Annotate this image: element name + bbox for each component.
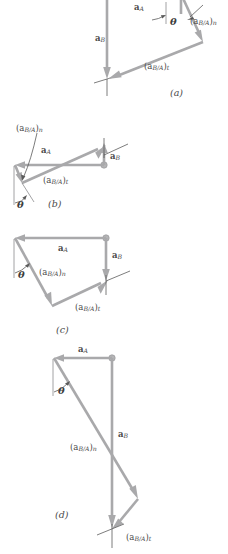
panel-c-label-aB-subscript: B xyxy=(118,253,123,260)
panel-a-theta-pointer-head xyxy=(161,15,166,19)
panel-a-label-aA-subscript: A xyxy=(140,5,144,12)
panel-d-label-rel-t-component: t xyxy=(149,535,152,542)
panel-b-label-aB-subscript: B xyxy=(116,154,121,161)
panel-d-label-rel-t: (aB/A)t xyxy=(126,533,151,542)
panel-b-label-aB: aB xyxy=(110,152,120,161)
panel-c-label-aB: aB xyxy=(112,251,122,260)
vector-diagram-svg xyxy=(0,0,228,554)
panel-c-label-rel-n-subscript: B/A xyxy=(47,270,58,277)
panel-a-label-aB-subscript: B xyxy=(101,36,106,43)
panel-c-tip-tick xyxy=(106,271,130,281)
panel-d-label-theta: θ xyxy=(58,386,65,396)
panel-d-label-rel-n-subscript: B/A xyxy=(78,445,89,452)
panel-a-vector-rel-t-head xyxy=(108,71,122,79)
panel-b-label-aA: aA xyxy=(41,146,51,155)
panel-a-label-rel-t-component: t xyxy=(167,64,170,71)
panel-c-label-rel-n-component: n xyxy=(62,270,66,277)
panel-d-vector-rel-t-shaft xyxy=(119,499,138,522)
panel-a-label-rel-n-subscript: B/A xyxy=(198,19,209,26)
panel-a-vector-aB-head xyxy=(103,67,111,79)
panel-a-label-rel-n: (aB/A)n xyxy=(190,17,217,26)
panel-b-caption: (b) xyxy=(48,199,62,209)
panel-d-label-aA: aA xyxy=(78,345,88,354)
panel-c-label-rel-t: (aB/A)t xyxy=(75,303,100,312)
panel-b-graphics xyxy=(14,133,128,205)
panel-a-label-aA: aA xyxy=(134,3,144,12)
panel-a-graphics xyxy=(94,0,203,96)
panel-c-label-aA: aA xyxy=(58,244,68,253)
panel-a-label-rel-t: (aB/A)t xyxy=(144,62,169,71)
panel-b-label-rel-t-component: t xyxy=(66,178,69,185)
panel-d-vector-rel-n-shaft xyxy=(54,358,133,490)
panel-c-label-aA-subscript: A xyxy=(64,246,68,253)
panel-c-graphics xyxy=(14,234,130,306)
panel-c-label-rel-t-component: t xyxy=(98,305,101,312)
panel-d-label-aB-subscript: B xyxy=(124,432,129,439)
panel-b-n-label-pointer xyxy=(24,133,37,176)
panel-d-caption: (d) xyxy=(55,510,69,520)
panel-c-vector-rel-t-head xyxy=(98,280,109,294)
panel-c-label-rel-t-subscript: B/A xyxy=(83,305,94,312)
figure-root: aA aB (aB/A)n (aB/A)t θ (a) (aB/A)n aA a… xyxy=(0,0,228,554)
panel-d-label-rel-n-component: n xyxy=(93,445,97,452)
panel-b-label-aA-subscript: A xyxy=(47,148,51,155)
panel-a-label-theta: θ xyxy=(170,17,177,27)
panel-b-label-theta: θ xyxy=(17,200,24,210)
panel-a-label-aB: aB xyxy=(95,34,105,43)
panel-b-label-rel-n: (aB/A)n xyxy=(16,124,43,133)
panel-b-vector-rel-n-head xyxy=(16,172,22,183)
panel-c-label-rel-n: (aB/A)n xyxy=(39,268,66,277)
panel-c-caption: (c) xyxy=(56,325,69,335)
panel-b-label-rel-n-component: n xyxy=(39,126,43,133)
panel-b-label-rel-t: (aB/A)t xyxy=(43,176,68,185)
panel-a-label-rel-t-subscript: B/A xyxy=(152,64,163,71)
panel-d-label-rel-n: (aB/A)n xyxy=(70,443,97,452)
panel-c-label-theta: θ xyxy=(18,270,25,280)
panel-d-label-aA-subscript: A xyxy=(84,347,88,354)
panel-b-label-rel-n-subscript: B/A xyxy=(24,126,35,133)
panel-d-label-aB: aB xyxy=(118,430,128,439)
panel-a-label-rel-n-component: n xyxy=(213,19,217,26)
panel-b-label-rel-t-subscript: B/A xyxy=(51,178,62,185)
panel-d-label-rel-t-subscript: B/A xyxy=(134,535,145,542)
panel-a-caption: (a) xyxy=(170,88,183,98)
panel-d-tip-tick xyxy=(97,524,124,535)
panel-a-vector-rel-n-head xyxy=(195,30,203,42)
